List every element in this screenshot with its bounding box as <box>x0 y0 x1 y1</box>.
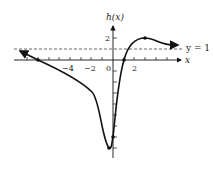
key-points <box>36 36 147 150</box>
asymptote-label: y = 1 <box>185 43 210 53</box>
x-tick-label-neg4: −4 <box>62 64 74 73</box>
y-axis-title: h(x) <box>106 12 124 22</box>
function-graph: h(x) x y = 1 −4 −2 0 2 2 <box>0 0 213 174</box>
curve-left-arrow <box>20 51 38 60</box>
y-tick-label-2: 2 <box>105 34 110 43</box>
x-tick-label-2: 2 <box>132 64 137 73</box>
x-tick-label-neg2: −2 <box>84 64 96 73</box>
x-tick-label-0: 0 <box>106 64 111 73</box>
x-axis-title: x <box>185 55 190 65</box>
function-curve <box>38 38 176 148</box>
